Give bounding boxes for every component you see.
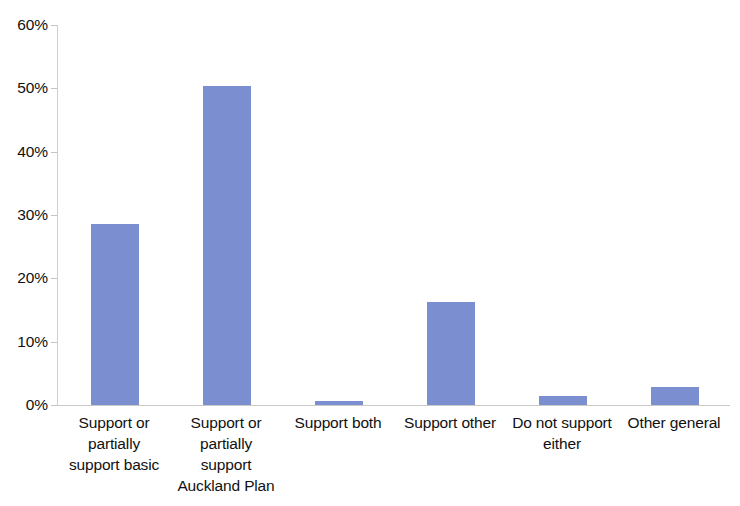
y-axis-tick-label: 30%: [0, 207, 48, 223]
y-axis-tick-mark: [51, 215, 57, 216]
y-axis-tick-mark: [51, 278, 57, 279]
bar[interactable]: [91, 224, 139, 405]
bar[interactable]: [651, 387, 699, 405]
bar[interactable]: [315, 401, 363, 405]
y-axis-tick-label: 60%: [0, 17, 48, 33]
y-axis-tick-label: 10%: [0, 334, 48, 350]
y-axis-tick-label: 40%: [0, 144, 48, 160]
y-axis-tick-mark: [51, 405, 57, 406]
y-axis-tick-mark: [51, 152, 57, 153]
x-axis-category-label: Support or partially support basic: [52, 412, 176, 475]
y-axis-tick-mark: [51, 342, 57, 343]
x-axis-category-label: Support or partially support Auckland Pl…: [164, 412, 288, 496]
y-axis-tick-mark: [51, 88, 57, 89]
bar[interactable]: [539, 396, 587, 405]
x-axis-category-label: Do not support either: [500, 412, 624, 454]
y-axis-tick-label: 20%: [0, 270, 48, 286]
y-axis-tick-label: 50%: [0, 80, 48, 96]
plot-area: [58, 25, 730, 405]
x-axis-line: [57, 405, 730, 406]
y-axis: 0%10%20%30%40%50%60%: [0, 0, 48, 506]
bar[interactable]: [427, 302, 475, 405]
y-axis-tick-mark: [51, 25, 57, 26]
bar-chart: 0%10%20%30%40%50%60% Support or partiall…: [0, 0, 740, 506]
x-axis: Support or partially support basicSuppor…: [58, 412, 730, 506]
bar[interactable]: [203, 86, 251, 405]
x-axis-category-label: Support both: [276, 412, 400, 433]
x-axis-category-label: Support other: [388, 412, 512, 433]
y-axis-tick-label: 0%: [0, 397, 48, 413]
x-axis-category-label: Other general: [612, 412, 736, 433]
